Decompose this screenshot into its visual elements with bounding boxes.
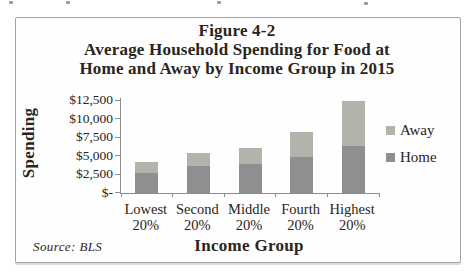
bar-segment-away-lowest [135,162,158,172]
x-axis-title: Income Group [120,236,378,256]
x-category-label-second: Second20% [172,201,224,233]
y-tick-label: $5,000 [45,148,113,164]
y-tick-label: $2,500 [45,166,113,182]
bar-segment-home-second [187,166,210,193]
plot-area [120,98,379,194]
figure-title-line-1: Average Household Spending for Food at [15,40,459,59]
bar-middle [239,148,262,192]
figure-title-block: Figure 4-2 Average Household Spending fo… [15,21,459,78]
x-axis-labels: Lowest20% Second20% Middle20% Fourth20% … [120,201,378,233]
legend-item-home: Home [386,149,437,166]
bar-lowest [135,162,158,192]
x-tick-mark [224,193,225,197]
x-tick-mark [172,193,173,197]
scanned-page: Figure 4-2 Average Household Spending fo… [0,0,465,276]
x-category-label-lowest: Lowest20% [120,201,172,233]
cropped-text-fragment [66,1,70,4]
legend-item-away: Away [386,122,437,139]
legend-swatch-away [386,126,395,135]
bar-segment-home-fourth [290,157,313,193]
bar-fourth [290,132,313,193]
x-tick-mark [275,193,276,197]
x-category-label-highest: Highest20% [326,201,378,233]
bar-highest [342,101,365,193]
bar-second [187,153,210,192]
x-tick-mark [121,193,122,197]
x-tick-mark [379,193,380,197]
y-tick-label: $7,500 [45,129,113,145]
x-category-label-middle: Middle20% [223,201,275,233]
bar-segment-home-middle [239,164,262,193]
legend-label-home: Home [400,149,437,166]
y-tick-label: $12,500 [45,92,113,108]
legend: Away Home [386,122,437,166]
y-tick-label: $10,000 [45,111,113,127]
bar-segment-home-highest [342,146,365,193]
legend-swatch-home [386,153,395,162]
cropped-text-fragment [217,1,221,4]
figure-number: Figure 4-2 [15,21,459,40]
y-axis-title-text: Spending [19,108,39,178]
cropped-text-fragment [9,1,13,4]
legend-label-away: Away [400,122,434,139]
y-axis-title: Spending [16,88,42,198]
bar-segment-away-highest [342,101,365,146]
figure-title-line-2: Home and Away by Income Group in 2015 [15,59,459,78]
y-tick-label: $- [45,185,113,201]
y-axis-labels: $12,500$10,000$7,500$5,000$2,500$- [45,98,113,193]
cropped-text-fragment [364,2,368,5]
x-tick-mark [327,193,328,197]
source-note: Source: BLS [33,239,102,255]
bar-segment-home-lowest [135,173,158,193]
x-category-label-fourth: Fourth20% [275,201,327,233]
bar-segment-away-second [187,153,210,166]
bar-segment-away-middle [239,148,262,164]
bar-segment-away-fourth [290,132,313,157]
